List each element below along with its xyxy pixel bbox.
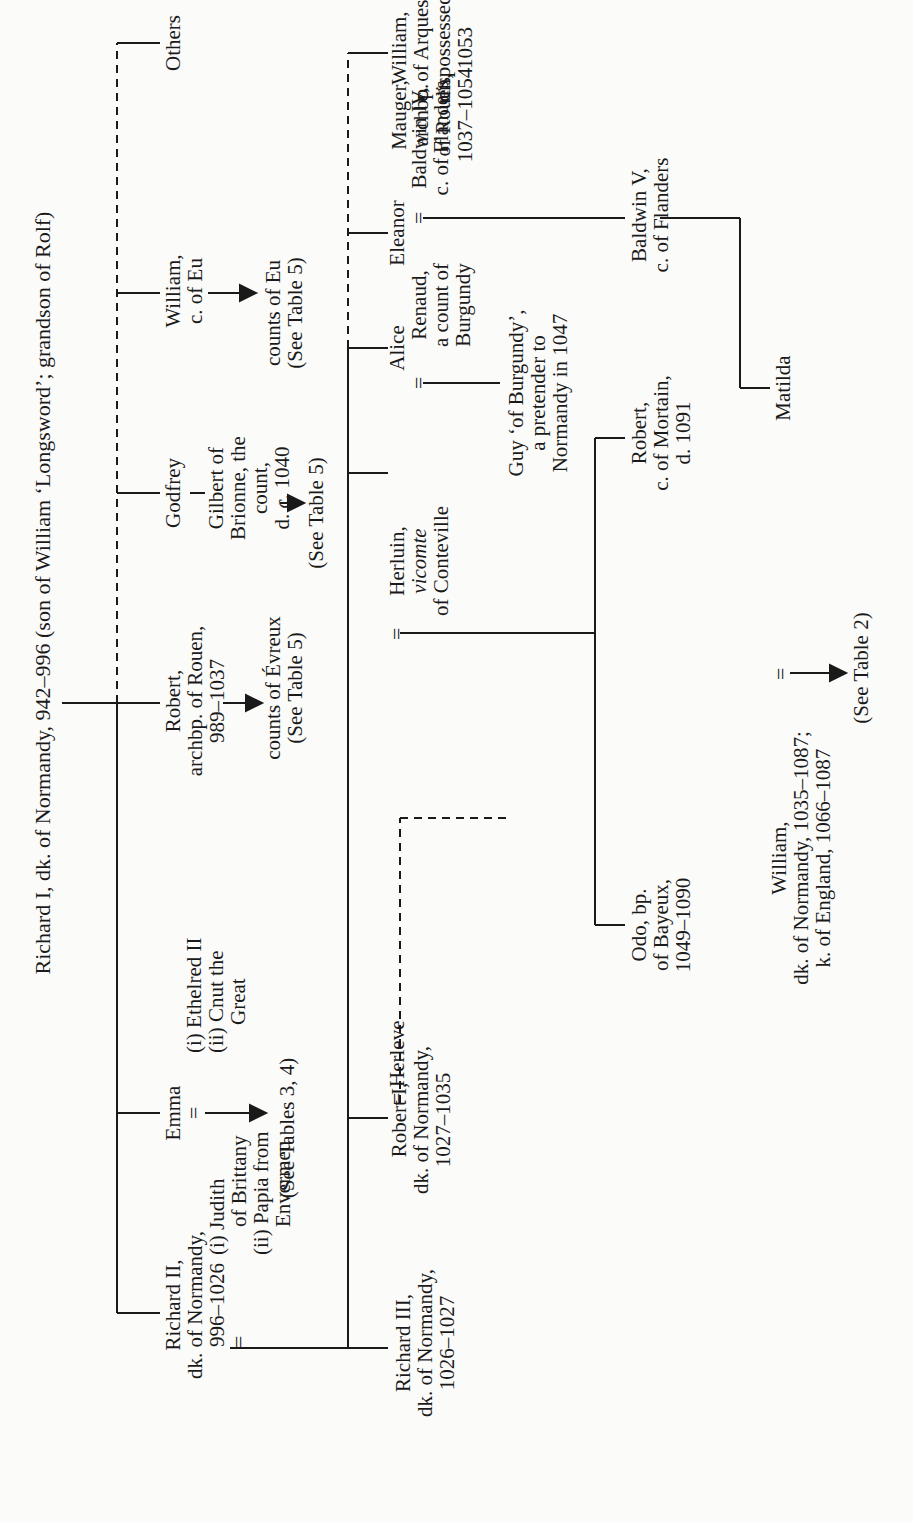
person-godfrey: Godfrey <box>162 458 184 528</box>
person-william-count-of-arques: William, c. of Arques, dispossessed 1053 <box>388 0 476 102</box>
person-robert-archbishop: Robert, archbp. of Rouen, 989–1037 <box>162 626 228 776</box>
person-robert-of-mortain: Robert, c. of Mortain, d. 1091 <box>628 375 694 490</box>
emma-spouses: (i) Ethelred II (ii) Cnut the Great <box>183 938 249 1053</box>
marriage-symbol: = <box>228 1336 250 1348</box>
reference-table-2: (See Table 2) <box>850 612 872 723</box>
person-eleanor: Eleanor <box>386 200 408 265</box>
root-ancestor-title: Richard I, dk. of Normandy, 942–996 (son… <box>30 212 56 975</box>
person-gilbert-of-brionne: Gilbert of Brionne, the count, d. c. 104… <box>205 436 293 540</box>
person-baldwin-v: Baldwin V, c. of Flanders <box>628 158 672 273</box>
person-guy-of-burgundy: Guy ‘of Burgundy’, a pretender to Norman… <box>505 309 571 476</box>
marriage-symbol: = <box>386 1093 408 1105</box>
person-richard-iii: Richard III, dk. of Normandy, 1026–1027 <box>392 1269 458 1417</box>
person-matilda: Matilda <box>772 355 794 420</box>
genealogy-table: Richard I, dk. of Normandy, 942–996 (son… <box>0 0 913 1523</box>
others: Others <box>162 15 184 71</box>
marriage-symbol: = <box>408 377 430 389</box>
marriage-symbol: = <box>408 212 430 224</box>
person-herleve: Herleve <box>386 1021 408 1087</box>
person-alice: Alice <box>386 325 408 370</box>
counts-of-evreux: counts of Évreux (See Table 5) <box>262 616 306 759</box>
person-herluin: Herluin, vicomte of Conteville <box>386 506 452 616</box>
reference-table-5: (See Table 5) <box>305 457 327 568</box>
reference-tables-3-4: (See Tables 3, 4) <box>276 1058 298 1198</box>
person-odo-of-bayeux: Odo, bp. of Bayeux, 1049–1090 <box>628 878 694 973</box>
counts-of-eu: counts of Eu (See Table 5) <box>262 257 306 368</box>
marriage-symbol: = <box>183 1107 205 1119</box>
marriage-symbol: = <box>770 668 792 680</box>
person-renaud: Renaud, a count of Burgundy <box>408 263 474 347</box>
person-william-count-of-eu: William, c. of Eu <box>162 254 206 327</box>
person-william-the-conqueror: William, dk. of Normandy, 1035–1087; k. … <box>768 731 834 985</box>
marriage-symbol: = <box>386 628 408 640</box>
